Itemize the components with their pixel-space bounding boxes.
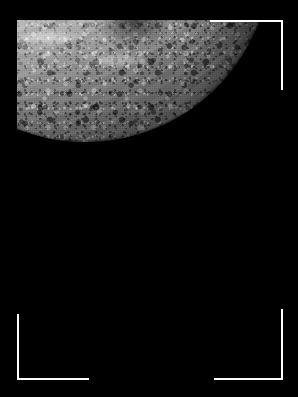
bracket-arm-vertical — [281, 309, 283, 380]
bracket-arm-horizontal — [214, 378, 283, 380]
moon-body-disc — [17, 20, 261, 142]
film-grain-texture — [17, 20, 261, 142]
bracket-arm-vertical — [281, 20, 283, 90]
image-viewer: Cratered moon surface photographed again… — [0, 0, 298, 397]
shadowed-basin-texture — [17, 20, 261, 142]
moon-photograph: Cratered moon surface photographed again… — [17, 20, 261, 368]
bracket-arm-horizontal — [17, 378, 89, 380]
crater-coarse-texture — [17, 20, 261, 142]
limb-edge-falloff — [17, 20, 261, 142]
crater-fine-texture — [17, 20, 261, 142]
albedo-band-texture — [17, 20, 261, 142]
crater-rim-highlights — [17, 20, 261, 142]
